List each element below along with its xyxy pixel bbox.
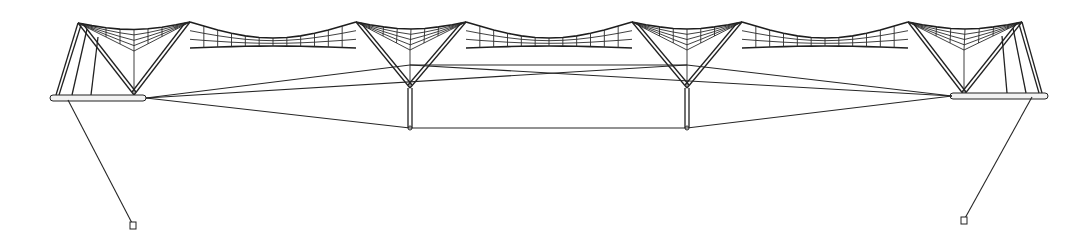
lower-cable-1 [146,98,410,128]
saddle-canopy-1 [190,46,356,48]
mast-4-valley-rib [950,28,951,43]
mast-2-valley-rib [410,29,411,50]
upper-cable-4 [146,65,687,98]
upper-cable-5 [410,65,952,96]
mast-4-valley-rib [979,28,980,43]
mast-4-valley-rib [964,29,965,50]
left-anchor-block [130,222,136,229]
right-boom-brace-3 [1013,28,1026,93]
right-boom-brace-2 [1019,24,1039,93]
left-boom-brace-4 [91,37,98,95]
mast-2-valley-rib [383,27,384,36]
left-anchor-tie [68,100,133,225]
upper-cable-3 [687,65,952,96]
right-boom [950,93,1048,99]
roof-structure-diagram [0,0,1091,242]
left-boom [50,95,146,101]
mast-2-valley-rib [438,27,439,36]
mast-2-valley-rib [397,28,398,43]
upper-cable-1 [146,65,410,98]
left-boom-brace-2 [59,25,81,95]
saddle-canopy-2 [466,46,632,48]
structure-drawing [0,0,1091,242]
right-anchor-tie [964,97,1032,220]
mast-4-valley-rib [993,27,994,36]
lower-cable-3 [687,96,952,128]
right-anchor-block [961,217,967,224]
right-boom-brace-1 [1022,22,1042,93]
mast-2-valley-rib [424,28,425,43]
left-boom-brace-3 [72,29,87,95]
saddle-canopy-3 [742,46,908,48]
mast-4-valley-rib [936,27,937,36]
